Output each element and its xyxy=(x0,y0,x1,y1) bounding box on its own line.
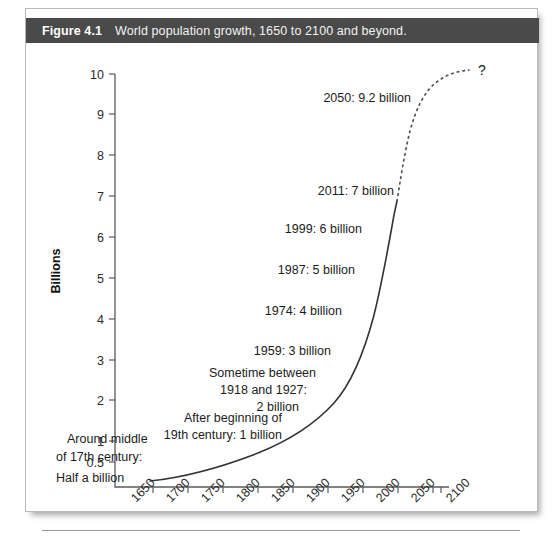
population-growth-chart: 10 9 8 7 6 5 4 3 2 1 0.5 Billions xyxy=(26,43,539,513)
annotation-2-billion: 2 billion xyxy=(257,400,299,414)
chart-axes xyxy=(115,74,449,487)
y-tick-label-10: 10 xyxy=(90,68,104,82)
y-tick-label-7: 7 xyxy=(97,190,104,204)
population-curve-projection xyxy=(397,70,469,201)
annotation-1918-and-1927: 1918 and 1927: xyxy=(220,383,307,397)
y-tick-label-9: 9 xyxy=(97,108,104,122)
annotation-1987-5-billion: 1987: 5 billion xyxy=(278,263,355,277)
y-tick-label-4: 4 xyxy=(97,313,104,327)
annotation-1959-3-billion: 1959: 3 billion xyxy=(254,344,331,358)
annotation-half-a-billion: Half a billion xyxy=(56,471,124,485)
page-divider-rule xyxy=(42,530,520,531)
annotation-2011-7-billion: 2011: 7 billion xyxy=(318,184,394,198)
y-axis-title: Billions xyxy=(49,248,63,293)
annotation-19th-century-1-billion: 19th century: 1 billion xyxy=(164,428,282,442)
y-tick-label-5: 5 xyxy=(97,272,104,286)
y-tick-label-8: 8 xyxy=(97,149,104,163)
y-tick-label-3: 3 xyxy=(97,354,104,368)
annotation-of-17th-century: of 17th century: xyxy=(56,450,142,464)
annotation-around-middle: Around middle xyxy=(67,432,148,446)
chart-plot-area: 10 9 8 7 6 5 4 3 2 1 0.5 Billions xyxy=(26,43,539,513)
annotation-2050-9-2-billion: 2050: 9.2 billion xyxy=(323,91,411,105)
annotation-1999-6-billion: 1999: 6 billion xyxy=(285,222,362,236)
x-tick-label-2100: 2100 xyxy=(443,476,473,506)
annotation-sometime-between: Sometime between xyxy=(209,366,316,380)
y-axis-ticks xyxy=(109,74,115,462)
y-tick-label-2: 2 xyxy=(97,394,104,408)
figure-number: Figure 4.1 xyxy=(42,24,102,38)
figure-card: Figure 4.1 World population growth, 1650… xyxy=(25,8,538,512)
annotation-1974-4-billion: 1974: 4 billion xyxy=(265,304,342,318)
figure-header-bar: Figure 4.1 World population growth, 1650… xyxy=(26,18,539,43)
figure-caption: World population growth, 1650 to 2100 an… xyxy=(115,24,407,38)
annotation-question-mark: ? xyxy=(478,62,486,78)
y-tick-label-6: 6 xyxy=(97,231,104,245)
